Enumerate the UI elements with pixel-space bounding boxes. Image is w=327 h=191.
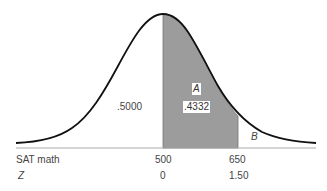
region-b-label: B bbox=[251, 131, 258, 143]
left-region-value: .5000 bbox=[117, 101, 142, 113]
shaded-region-a bbox=[163, 14, 238, 148]
region-a-value: .4332 bbox=[183, 101, 210, 113]
z-tick-1-50: 1.50 bbox=[229, 170, 248, 182]
sat-tick-650: 650 bbox=[229, 154, 246, 166]
z-tick-0: 0 bbox=[160, 170, 166, 182]
sat-math-axis-label: SAT math bbox=[16, 154, 60, 166]
z-axis-label: Z bbox=[18, 170, 24, 182]
region-a-label: A bbox=[192, 83, 201, 95]
sat-tick-500: 500 bbox=[155, 154, 172, 166]
